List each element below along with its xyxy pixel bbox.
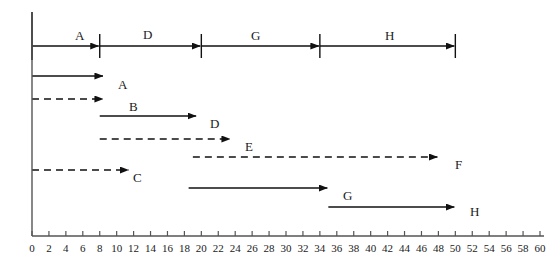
x-tick-label-42: 42 xyxy=(382,243,394,254)
x-tick-label-30: 30 xyxy=(280,243,292,254)
gantt-label-D: D xyxy=(210,117,219,130)
x-tick-label-26: 26 xyxy=(246,243,258,254)
x-tick-label-50: 50 xyxy=(449,243,461,254)
gantt-label-E: E xyxy=(245,140,253,153)
network-label-G: G xyxy=(251,29,260,42)
gantt-label-A: A xyxy=(118,78,127,91)
x-tick-label-14: 14 xyxy=(145,243,157,254)
x-tick-label-52: 52 xyxy=(466,243,478,254)
x-tick-label-22: 22 xyxy=(212,243,224,254)
gantt-label-C: C xyxy=(133,171,142,184)
x-tick-label-12: 12 xyxy=(128,243,140,254)
gantt-label-B: B xyxy=(129,100,138,113)
gantt-network-figure: ADGH ABDECFGH 02468101214161820222426283… xyxy=(0,0,560,262)
x-tick-label-6: 6 xyxy=(77,243,89,254)
x-tick-label-60: 60 xyxy=(534,243,546,254)
x-tick-label-16: 16 xyxy=(161,243,173,254)
x-tick-label-58: 58 xyxy=(517,243,529,254)
network-label-A: A xyxy=(75,29,84,42)
x-tick-label-44: 44 xyxy=(399,243,411,254)
x-tick-label-32: 32 xyxy=(297,243,309,254)
x-tick-label-10: 10 xyxy=(111,243,123,254)
x-tick-label-28: 28 xyxy=(263,243,275,254)
x-tick-label-24: 24 xyxy=(229,243,241,254)
network-label-H: H xyxy=(385,29,394,42)
x-tick-label-4: 4 xyxy=(60,243,72,254)
x-tick-label-20: 20 xyxy=(195,243,207,254)
gantt-label-G: G xyxy=(343,189,352,202)
x-tick-label-2: 2 xyxy=(43,243,55,254)
gantt-label-F: F xyxy=(455,158,462,171)
x-tick-label-34: 34 xyxy=(314,243,326,254)
x-tick-label-48: 48 xyxy=(432,243,444,254)
gantt-label-H: H xyxy=(470,205,479,218)
x-tick-label-46: 46 xyxy=(415,243,427,254)
network-label-D: D xyxy=(143,28,152,41)
x-tick-label-38: 38 xyxy=(348,243,360,254)
x-tick-label-56: 56 xyxy=(500,243,512,254)
x-tick-label-18: 18 xyxy=(178,243,190,254)
x-tick-label-0: 0 xyxy=(26,243,38,254)
x-tick-label-40: 40 xyxy=(365,243,377,254)
x-tick-label-54: 54 xyxy=(483,243,495,254)
gantt-bars-layer xyxy=(32,76,454,207)
x-tick-label-36: 36 xyxy=(331,243,343,254)
x-tick-label-8: 8 xyxy=(94,243,106,254)
